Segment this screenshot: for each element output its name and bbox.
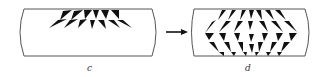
arrow-right-icon — [166, 29, 188, 35]
panel-d — [192, 9, 310, 56]
figure-canvas — [0, 0, 324, 77]
panel-c-outline — [20, 9, 156, 56]
panel-c-label: c — [87, 64, 92, 73]
panel-d-triangles — [205, 10, 297, 56]
panel-c-triangles — [49, 10, 132, 29]
panel-d-label: d — [245, 64, 251, 73]
panel-c — [20, 9, 156, 56]
panel-d-outline — [192, 9, 310, 56]
